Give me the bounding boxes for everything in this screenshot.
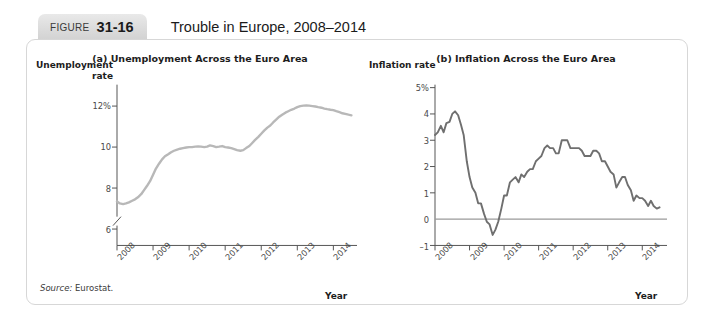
figure-header: FIGURE 31-16 Trouble in Europe, 2008–201…	[38, 14, 366, 40]
panel-a-ytick-0: 12%	[53, 101, 111, 111]
panel-a-ytick-1: 10	[53, 142, 111, 152]
panel-b-ytick-0: 5%	[377, 83, 429, 93]
figure-root: FIGURE 31-16 Trouble in Europe, 2008–201…	[0, 0, 715, 328]
figure-card: (a) Unemployment Across the Euro Area Un…	[26, 39, 688, 305]
panel-b-x-axis-title: Year	[635, 291, 657, 301]
panel-inflation: (b) Inflation Across the Euro Area Infla…	[363, 40, 689, 304]
panel-a-y-axis-title: Unemploymentrate	[33, 60, 113, 82]
figure-title: Trouble in Europe, 2008–2014	[147, 14, 366, 40]
figure-badge-number: 31-16	[97, 19, 134, 35]
panel-a-ytick-3: 6	[53, 225, 111, 235]
source-note: Source: Eurostat.	[40, 283, 113, 293]
panel-b-ytick-4: 1	[377, 189, 429, 199]
source-prefix: Source:	[40, 283, 72, 293]
inflation-plot	[363, 40, 689, 304]
panel-a-ytick-2: 8	[53, 184, 111, 194]
panel-b-ytick-5: 0	[377, 215, 429, 225]
panel-b-ytick-1: 4	[377, 109, 429, 119]
panel-a-x-axis-title: Year	[325, 291, 347, 301]
figure-badge: FIGURE 31-16	[38, 14, 147, 40]
figure-badge-label: FIGURE	[50, 22, 90, 33]
panel-b-y-axis-title: Inflation rate	[369, 60, 436, 71]
panel-b-ytick-6: –1	[377, 242, 429, 252]
panel-a-y-axis-title-line-1: rate	[33, 71, 113, 82]
source-text: Eurostat.	[75, 283, 113, 293]
panel-b-ytick-2: 3	[377, 136, 429, 146]
panel-a-y-axis-title-line-0: Unemployment	[33, 60, 113, 71]
panel-b-ytick-3: 2	[377, 162, 429, 172]
panel-unemployment: (a) Unemployment Across the Euro Area Un…	[33, 40, 363, 304]
